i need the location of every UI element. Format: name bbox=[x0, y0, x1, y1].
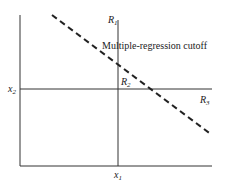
multiple-regression-cutoff-line bbox=[52, 15, 212, 135]
r1-subscript: 1 bbox=[114, 19, 118, 27]
diagram-canvas bbox=[0, 0, 226, 186]
cutoff-label: Multiple-regression cutoff bbox=[102, 41, 207, 51]
region-r1-label: R1 bbox=[108, 15, 118, 27]
x2-axis-label: x2 bbox=[8, 84, 16, 96]
region-r2-label: R2 bbox=[121, 77, 131, 89]
region-r3-label: R3 bbox=[200, 95, 210, 107]
r3-subscript: 3 bbox=[206, 99, 210, 107]
x1-subscript: 1 bbox=[118, 174, 122, 182]
x2-subscript: 2 bbox=[12, 88, 16, 96]
r2-subscript: 2 bbox=[127, 81, 131, 89]
x1-axis-label: x1 bbox=[114, 170, 122, 182]
